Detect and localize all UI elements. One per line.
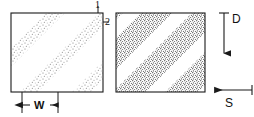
arrow-s bbox=[215, 85, 252, 95]
block-2-fill bbox=[116, 13, 205, 92]
block-1 bbox=[11, 13, 103, 92]
callout-label-2: 2 bbox=[105, 17, 110, 27]
arrow-s-label: S bbox=[225, 98, 233, 108]
arrow-d bbox=[219, 13, 229, 53]
block-2 bbox=[116, 13, 205, 92]
width-dimension-label: W bbox=[34, 100, 44, 110]
diagram-canvas: 1 2 W D S bbox=[0, 0, 254, 117]
callout-label-1: 1 bbox=[95, 0, 100, 10]
arrow-d-label: D bbox=[232, 14, 241, 24]
block-1-fill bbox=[11, 13, 103, 92]
